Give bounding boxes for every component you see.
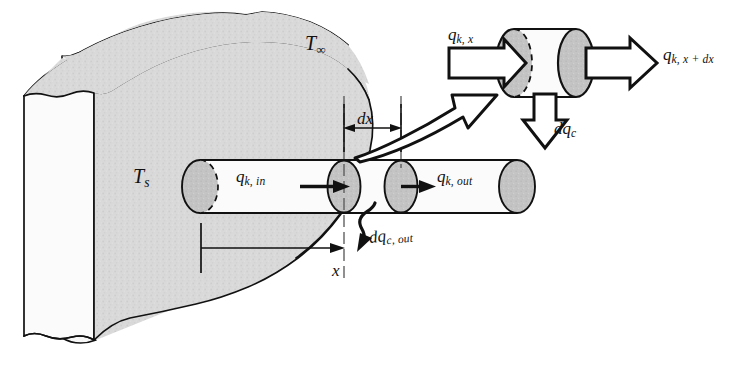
inset-outflow-arrow [586, 38, 657, 88]
label-t-infinity: T∞ [305, 33, 326, 56]
dqc-subscript: c [571, 127, 576, 140]
figure-canvas [0, 0, 741, 367]
rod-right-cap [499, 160, 535, 213]
qk-x-subscript: k, x [457, 33, 474, 46]
wall-left-break-face [24, 91, 94, 340]
qk-in-subscript: k, in [245, 175, 266, 188]
t-infinity-subscript: ∞ [316, 42, 325, 57]
t-surface-subscript: s [144, 175, 150, 190]
label-qk-x: qk, x [448, 26, 473, 46]
label-qk-out: qk, out [437, 168, 472, 188]
label-qk-x-plus-dx: qk, x + dx [663, 46, 714, 66]
label-x: x [332, 262, 340, 279]
fin-energy-balance-figure: T∞ Ts qk, in qk, out dx x dqc, out qk, x… [0, 0, 741, 367]
label-dqc: dqc [554, 120, 576, 140]
label-dqc-out: dqc, out [368, 224, 414, 248]
qk-x-plus-dx-subscript: k, x + dx [672, 53, 714, 66]
label-qk-in: qk, in [236, 168, 265, 188]
rod-left-cap [182, 160, 218, 213]
qk-out-subscript: k, out [446, 175, 473, 188]
label-dx: dx [357, 110, 373, 127]
label-t-surface: Ts [133, 166, 150, 189]
